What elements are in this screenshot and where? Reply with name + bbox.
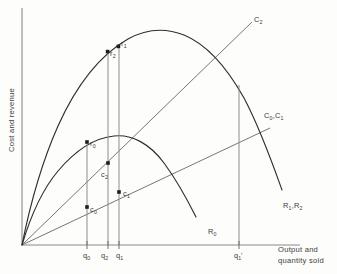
tick-label-q2: q2 xyxy=(101,251,108,261)
label-c1: c1 xyxy=(123,189,130,199)
label-c2: c2 xyxy=(101,170,108,180)
curve-label-c2: C2 xyxy=(254,15,263,25)
y-axis-title: Cost and revenue xyxy=(7,88,16,152)
curve-label-c0c1: C0,C1 xyxy=(264,111,284,121)
x-axis-title-line2: quantity sold xyxy=(278,256,324,265)
curve-labels-group: C2 C0,C1 R1,R2 R0 xyxy=(208,15,303,237)
tick-label-q0: q0 xyxy=(83,251,90,261)
point-c0 xyxy=(85,205,89,209)
marked-points-group xyxy=(85,45,121,209)
curve-label-r1r2: R1,R2 xyxy=(283,201,303,211)
x-axis-title-line1: Output and xyxy=(278,245,318,254)
revenue-curve-r1r2 xyxy=(22,30,282,245)
point-r2 xyxy=(106,50,110,54)
drop-lines-group xyxy=(87,47,239,245)
point-c2 xyxy=(106,161,110,165)
revenue-curves-group xyxy=(22,30,282,245)
point-r1 xyxy=(117,45,121,49)
axes-group xyxy=(22,8,300,245)
point-r0 xyxy=(85,140,89,144)
tick-label-q1: q1 xyxy=(116,251,123,261)
label-r0: r0 xyxy=(90,139,96,149)
label-r2: r2 xyxy=(110,49,116,59)
revenue-curve-r0 xyxy=(22,136,196,245)
tick-label-q1-prime: q1' xyxy=(234,251,243,261)
cost-rays-group xyxy=(22,22,270,245)
label-c0: c0 xyxy=(90,205,97,215)
x-tick-labels-group: q0 q2 q1 q1' xyxy=(83,251,243,261)
point-c1 xyxy=(117,190,121,194)
curve-label-r0: R0 xyxy=(208,227,217,237)
economics-diagram: r1 r2 r0 c2 c1 c0 C2 C0,C1 xyxy=(0,0,337,274)
cost-ray-c2 xyxy=(22,22,252,245)
